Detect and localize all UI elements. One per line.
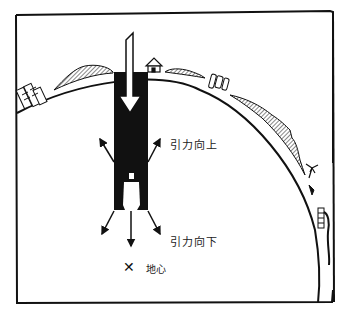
- city-buildings-icon: [16, 83, 47, 108]
- palm-tree-icon: [306, 164, 318, 178]
- cliff-waterfall-icon: [309, 185, 329, 265]
- gravity-up-label: 引力向上: [170, 136, 218, 152]
- earth-surface-arc: [17, 80, 319, 303]
- towers-icon: [208, 74, 229, 91]
- house-icon: [146, 58, 162, 72]
- earth-center-marker-icon: ✕: [123, 259, 135, 275]
- diagram-canvas: [0, 0, 360, 320]
- hill-right-small: [165, 69, 205, 78]
- mountain-right: [230, 95, 305, 175]
- earth-center-label: 地心: [146, 261, 166, 276]
- gravity-down-label: 引力向下: [170, 233, 218, 249]
- downward-force-arrows: [102, 211, 160, 246]
- hill-left: [54, 65, 113, 90]
- frame: [16, 11, 334, 303]
